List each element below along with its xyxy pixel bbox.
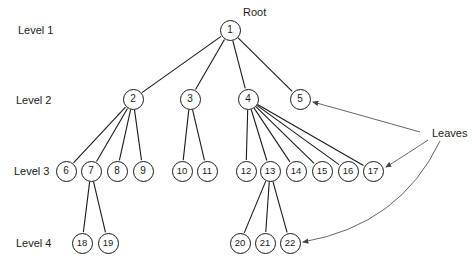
- tree-node-6: 6: [56, 161, 77, 182]
- tree-node-12: 12: [236, 161, 257, 182]
- edge-2-6: [73, 107, 125, 163]
- edge-3-10: [183, 110, 189, 160]
- edge-2-8: [119, 110, 130, 161]
- tree-node-4: 4: [238, 89, 259, 110]
- root-annotation: Root: [243, 6, 266, 18]
- tree-node-7: 7: [81, 161, 102, 182]
- tree-node-14: 14: [286, 161, 307, 182]
- edge-4-12: [246, 110, 247, 160]
- tree-node-8: 8: [107, 161, 128, 182]
- tree-node-5: 5: [290, 89, 311, 110]
- leaves-annotation: Leaves: [432, 127, 467, 139]
- tree-node-15: 15: [312, 161, 333, 182]
- edge-1-5: [238, 38, 292, 92]
- level-label-1: Level 1: [18, 24, 53, 36]
- edge-7-19: [94, 182, 106, 233]
- tree-node-19: 19: [98, 233, 119, 254]
- tree-node-16: 16: [338, 161, 359, 182]
- edge-13-22: [273, 182, 287, 233]
- tree-node-1: 1: [220, 20, 241, 41]
- tree-node-13: 13: [260, 161, 281, 182]
- edge-1-4: [233, 41, 245, 89]
- edge-2-9: [135, 110, 142, 160]
- edge-13-20: [244, 181, 266, 233]
- leaves-arrow-to-17: [386, 140, 428, 167]
- edge-4-16: [257, 105, 339, 164]
- tree-node-3: 3: [180, 89, 201, 110]
- tree-node-17: 17: [363, 161, 384, 182]
- tree-node-11: 11: [197, 161, 218, 182]
- level-label-4: Level 4: [16, 237, 51, 249]
- edge-1-3: [196, 40, 225, 90]
- edge-1-2: [142, 36, 221, 92]
- level-label-2: Level 2: [16, 94, 51, 106]
- edge-4-17: [258, 104, 364, 165]
- tree-node-20: 20: [230, 233, 251, 254]
- leaves-arrow-to-5: [313, 102, 420, 132]
- tree-diagram: Level 1Level 2Level 3Level 4 Root Leaves…: [0, 0, 472, 266]
- tree-node-21: 21: [255, 233, 276, 254]
- tree-node-9: 9: [133, 161, 154, 182]
- level-label-3: Level 3: [14, 165, 49, 177]
- tree-node-2: 2: [123, 89, 144, 110]
- tree-node-22: 22: [280, 233, 301, 254]
- edge-7-18: [83, 182, 89, 232]
- tree-node-10: 10: [172, 161, 193, 182]
- tree-edges: [0, 0, 472, 266]
- edge-4-13: [251, 110, 267, 161]
- leaves-arrow-to-22: [303, 141, 440, 242]
- edge-3-11: [193, 110, 205, 161]
- tree-node-18: 18: [72, 233, 93, 254]
- edge-2-7: [97, 109, 128, 162]
- edge-13-21: [266, 182, 269, 232]
